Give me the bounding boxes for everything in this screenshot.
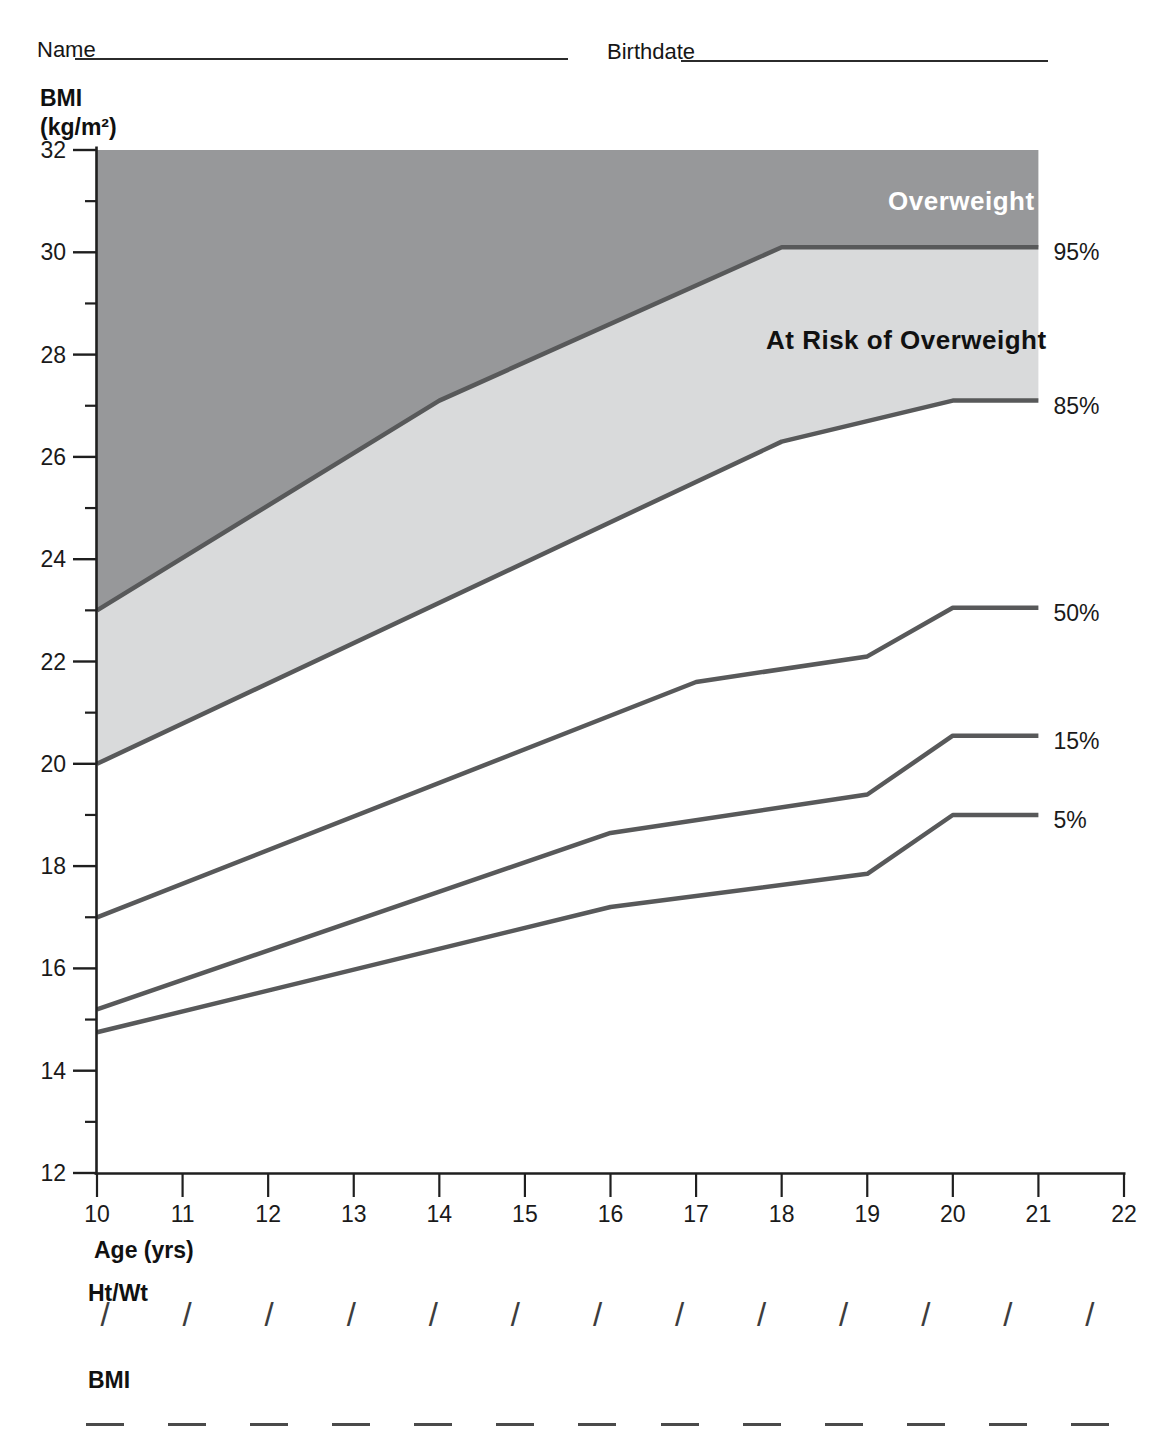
- htwt-entry-slot[interactable]: /: [577, 1295, 617, 1335]
- x-tick-label: 14: [427, 1201, 453, 1227]
- x-tick-label: 15: [512, 1201, 538, 1227]
- percentile-label-95%: 95%: [1053, 239, 1099, 265]
- bmi-entry-dash: [907, 1423, 945, 1426]
- bmi-entry-slot[interactable]: [85, 1408, 125, 1432]
- y-tick-label: 20: [40, 751, 66, 777]
- x-tick-label: 12: [255, 1201, 281, 1227]
- bmi-entry-slot[interactable]: [249, 1408, 289, 1432]
- bmi-row-label: BMI: [88, 1367, 130, 1394]
- bmi-entry-slot[interactable]: [906, 1408, 946, 1432]
- bmi-entry-dash: [825, 1423, 863, 1426]
- y-tick-label: 14: [40, 1058, 66, 1084]
- percentile-label-5%: 5%: [1053, 807, 1086, 833]
- bmi-entry-slot[interactable]: [577, 1408, 617, 1432]
- percentile-label-50%: 50%: [1053, 600, 1099, 626]
- htwt-entry-slot[interactable]: /: [988, 1295, 1028, 1335]
- shaded-regions: [97, 150, 1038, 764]
- htwt-entry-slot[interactable]: /: [824, 1295, 864, 1335]
- percentile-label-85%: 85%: [1053, 393, 1099, 419]
- bmi-entry-dash: [743, 1423, 781, 1426]
- bmi-entry-dash: [1071, 1423, 1109, 1426]
- bmi-entry-dash: [414, 1423, 452, 1426]
- y-tick-label: 32: [40, 137, 66, 163]
- bmi-entry-slot[interactable]: [1070, 1408, 1110, 1432]
- bmi-entry-row: [85, 1408, 1110, 1432]
- percentile-label-15%: 15%: [1053, 728, 1099, 754]
- bmi-entry-dash: [661, 1423, 699, 1426]
- bmi-entry-dash: [496, 1423, 534, 1426]
- htwt-entry-slot[interactable]: /: [249, 1295, 289, 1335]
- htwt-entry-slot[interactable]: /: [906, 1295, 946, 1335]
- x-tick-label: 20: [940, 1201, 966, 1227]
- x-tick-label: 16: [598, 1201, 624, 1227]
- x-tick-label: 13: [341, 1201, 367, 1227]
- at-risk-region-label: At Risk of Overweight: [766, 325, 1047, 356]
- bmi-entry-slot[interactable]: [167, 1408, 207, 1432]
- y-tick-label: 22: [40, 649, 66, 675]
- bmi-entry-slot[interactable]: [495, 1408, 535, 1432]
- y-tick-label: 12: [40, 1160, 66, 1186]
- y-tick-label: 30: [40, 239, 66, 265]
- bmi-entry-dash: [168, 1423, 206, 1426]
- htwt-entry-slot[interactable]: /: [660, 1295, 700, 1335]
- htwt-entry-slot[interactable]: /: [331, 1295, 371, 1335]
- y-tick-label: 16: [40, 955, 66, 981]
- overweight-region-label: Overweight: [888, 186, 1035, 217]
- bmi-entry-dash: [578, 1423, 616, 1426]
- y-tick-label: 24: [40, 546, 66, 572]
- htwt-entry-slot[interactable]: /: [413, 1295, 453, 1335]
- bmi-entry-slot[interactable]: [824, 1408, 864, 1432]
- htwt-entry-row: /////////////: [85, 1295, 1110, 1335]
- bmi-entry-slot[interactable]: [413, 1408, 453, 1432]
- htwt-entry-slot[interactable]: /: [742, 1295, 782, 1335]
- bmi-entry-slot[interactable]: [742, 1408, 782, 1432]
- bmi-entry-dash: [86, 1423, 124, 1426]
- bmi-entry-dash: [989, 1423, 1027, 1426]
- bmi-entry-slot[interactable]: [660, 1408, 700, 1432]
- y-tick-label: 18: [40, 853, 66, 879]
- x-tick-label: 18: [769, 1201, 795, 1227]
- bmi-chart-page: Name Birthdate BMI (kg/m²) 3230282624222…: [0, 0, 1175, 1435]
- x-axis-label: Age (yrs): [94, 1237, 194, 1264]
- htwt-entry-slot[interactable]: /: [167, 1295, 207, 1335]
- x-tick-label: 19: [854, 1201, 880, 1227]
- x-tick-label: 21: [1026, 1201, 1052, 1227]
- bmi-entry-slot[interactable]: [331, 1408, 371, 1432]
- htwt-entry-slot[interactable]: /: [85, 1295, 125, 1335]
- x-tick-label: 11: [171, 1201, 195, 1227]
- y-tick-label: 26: [40, 444, 66, 470]
- bmi-entry-dash: [250, 1423, 288, 1426]
- htwt-entry-slot[interactable]: /: [1070, 1295, 1110, 1335]
- y-tick-label: 28: [40, 342, 66, 368]
- htwt-entry-slot[interactable]: /: [495, 1295, 535, 1335]
- percentile-end-labels: 95%85%50%15%5%: [1053, 239, 1099, 833]
- x-tick-label: 10: [84, 1201, 110, 1227]
- x-tick-label: 17: [683, 1201, 709, 1227]
- bmi-entry-slot[interactable]: [988, 1408, 1028, 1432]
- percentile-curve-15%: [97, 736, 1038, 1010]
- x-tick-label: 22: [1111, 1201, 1137, 1227]
- bmi-entry-dash: [332, 1423, 370, 1426]
